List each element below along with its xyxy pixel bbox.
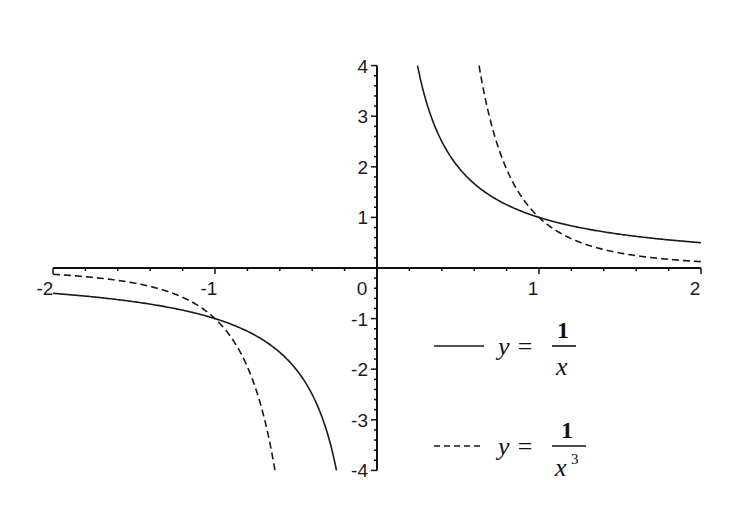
legend-item-reciprocal-cube: y = 1 x 3 (434, 417, 586, 482)
x-tick-label: -1 (201, 278, 218, 299)
legend: y = 1 x y = 1 x 3 (434, 317, 586, 482)
y-tick-label: -3 (351, 410, 368, 431)
curve-reciprocal-cube (479, 66, 701, 262)
y-tick-label: -1 (351, 309, 368, 330)
x-tick-label: 1 (528, 278, 539, 299)
legend-item-reciprocal: y = 1 x (434, 317, 576, 381)
y-tick-label: 4 (357, 56, 368, 77)
legend-denominator: x (554, 453, 567, 482)
x-tick-label: 2 (690, 278, 701, 299)
legend-label-lhs: y = (495, 432, 534, 461)
curve-reciprocal (418, 66, 702, 243)
x-tick-label: 0 (357, 278, 368, 299)
y-tick-label: -2 (351, 359, 368, 380)
legend-numerator: 1 (561, 417, 573, 443)
curve-reciprocal-cube (53, 274, 275, 470)
legend-denominator: x (555, 352, 568, 381)
y-tick-label: 1 (357, 207, 368, 228)
legend-label-lhs: y = (495, 332, 534, 361)
function-plot: -2-1012-4-3-2-11234 y = 1 x y = 1 x 3 (0, 0, 752, 516)
y-tick-label: 3 (357, 106, 368, 127)
legend-numerator: 1 (557, 317, 569, 343)
y-tick-label: 2 (357, 157, 368, 178)
curve-reciprocal (53, 293, 337, 470)
x-tick-label: -2 (37, 278, 54, 299)
axes: -2-1012-4-3-2-11234 (37, 56, 701, 482)
y-tick-label: -4 (351, 460, 368, 481)
legend-exponent: 3 (571, 451, 579, 467)
